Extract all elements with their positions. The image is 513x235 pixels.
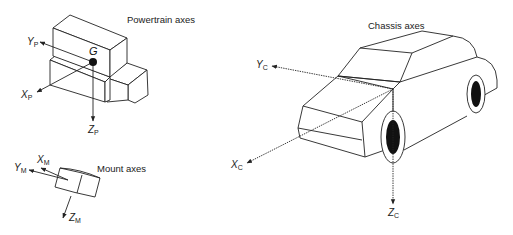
axes-diagram: G YP XP ZP Powertrain axes YM XM ZM Moun…	[0, 0, 513, 235]
mount-z-label: ZM	[68, 212, 81, 224]
chassis-axes	[247, 66, 393, 204]
powertrain-block	[50, 15, 148, 103]
powertrain-y-label: YP	[27, 36, 39, 48]
mount-x-label: XM	[36, 154, 50, 166]
center-of-gravity-dot	[89, 58, 97, 66]
chassis-x-label: XC	[230, 159, 243, 171]
mount-y-label: YM	[14, 162, 27, 174]
mount-block	[55, 168, 100, 197]
chassis-x-axis-arrow	[247, 89, 393, 163]
center-of-gravity-label: G	[89, 45, 98, 57]
powertrain-caption: Powertrain axes	[127, 14, 195, 25]
chassis-y-axis-arrow	[272, 66, 393, 89]
powertrain-z-label: ZP	[87, 124, 99, 136]
rear-wheel	[467, 75, 485, 113]
chassis-caption: Chassis axes	[368, 20, 425, 31]
chassis-z-label: ZC	[387, 207, 399, 219]
powertrain-x-label: XP	[20, 89, 33, 101]
chassis-y-label: YC	[256, 59, 268, 71]
mount-caption: Mount axes	[97, 163, 146, 174]
